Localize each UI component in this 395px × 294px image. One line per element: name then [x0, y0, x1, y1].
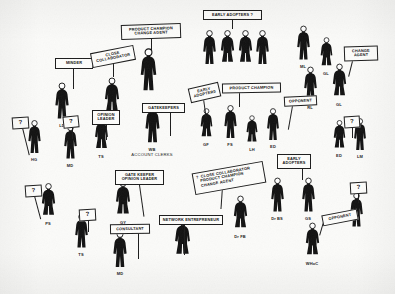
figure-initials: LH [249, 147, 255, 152]
placard-consultant: CONSULTANT [110, 224, 150, 235]
placard-minder: MINDER [55, 58, 93, 69]
diagram-canvas: LDMDWBACCOUNT CLERKSMLGLRLGLHGMDTSGFFSLH… [0, 0, 395, 294]
person-figure [237, 30, 254, 67]
placard-gatekeepers: GATEKEEPERS [142, 103, 185, 113]
placard-stick [239, 93, 240, 107]
placard-gate_opinion: GATE KEEPER OPINION LEADER [115, 170, 164, 185]
placard-change_agent: CHANGE AGENT [344, 45, 379, 61]
person-figure: FS [222, 105, 239, 141]
placard-prod_champ_change: PRODUCT CHAMPION CHANGE AGENT [121, 23, 181, 40]
figure-initials: Dr BS [271, 216, 283, 221]
placard-stick [352, 126, 353, 138]
figure-sublabel: ACCOUNT CLERKS [131, 152, 172, 157]
figure-initials: HG [31, 157, 37, 162]
placard-stick [348, 61, 353, 77]
placard-stick [184, 225, 185, 255]
placard-stick [302, 168, 303, 180]
placard-stick [358, 193, 359, 203]
placard-stick [113, 63, 114, 77]
placard-stick [88, 220, 89, 232]
placard-stick [232, 20, 233, 29]
placard-network_entre: NETWORK ENTREPRENEUR [159, 215, 223, 225]
placard-stick [288, 106, 293, 130]
figure-initials: MD [117, 271, 123, 276]
figure-initials: WB [149, 147, 156, 152]
person-figure [138, 48, 159, 94]
person-figure: MD [62, 124, 79, 162]
placard-q_left3: ? [25, 184, 43, 197]
placard-q_mid: ? [79, 209, 97, 221]
figure-initials: GS [305, 216, 311, 221]
placard-opinion_leader: OPINION LEADER [92, 110, 120, 125]
placard-combo: ? CLOSE COLLABORATOR PRODUCT CHAMPION CH… [192, 161, 267, 195]
person-figure: Dr BS [269, 177, 286, 215]
person-figure: GY [114, 180, 132, 219]
figure-initials: TS [98, 154, 103, 159]
placard-q_left1: ? [12, 116, 30, 129]
placard-early_adopters3: EARLY ADOPTERS [277, 154, 311, 169]
figure-initials: TS [78, 252, 83, 257]
person-figure [254, 30, 271, 67]
person-figure: LH [245, 115, 259, 146]
figure-initials: LM [357, 154, 363, 159]
person-figure: ED [265, 108, 281, 143]
person-figure: GS [300, 177, 317, 215]
placard-stick [170, 112, 171, 136]
person-figure: MD [111, 231, 129, 270]
figure-initials: ED [336, 153, 342, 158]
placard-q_left2: ? [62, 115, 79, 128]
placard-stick [73, 69, 74, 89]
figure-initials: MD [67, 163, 73, 168]
figure-initials: GL [323, 71, 329, 76]
figure-initials: Dr FB [234, 234, 245, 239]
placard-stick [72, 126, 73, 139]
placard-product_champion: PRODUCT CHAMPION [222, 82, 281, 93]
placard-q_right2: ? [350, 182, 368, 194]
figure-initials: FS [227, 142, 232, 147]
figure-initials: WHoC [306, 261, 318, 266]
person-figure: Dr FB [232, 195, 249, 233]
figure-initials: PS [45, 221, 51, 226]
person-figure: WHoC [304, 222, 321, 260]
placard-early_adopters2: EARLY ADOPTERS [188, 82, 222, 103]
person-figure: GF [199, 108, 214, 141]
person-figure [219, 30, 236, 67]
placard-q_right1: ? [344, 115, 361, 128]
person-figure: GL [331, 63, 348, 101]
person-figure: ML [295, 25, 312, 63]
placard-stick [139, 185, 144, 217]
placard-early_adopters_q: EARLY ADOPTERS ? [203, 10, 262, 20]
placard-stick [151, 39, 152, 51]
figure-initials: GL [336, 102, 342, 107]
person-figure: PS [40, 183, 57, 220]
figure-initials: ED [270, 144, 276, 149]
person-figure [201, 30, 218, 67]
placard-opponent1: OPPONENT [284, 95, 317, 107]
placard-stick [106, 124, 107, 140]
figure-initials: GF [203, 142, 209, 147]
placard-stick [138, 233, 139, 259]
